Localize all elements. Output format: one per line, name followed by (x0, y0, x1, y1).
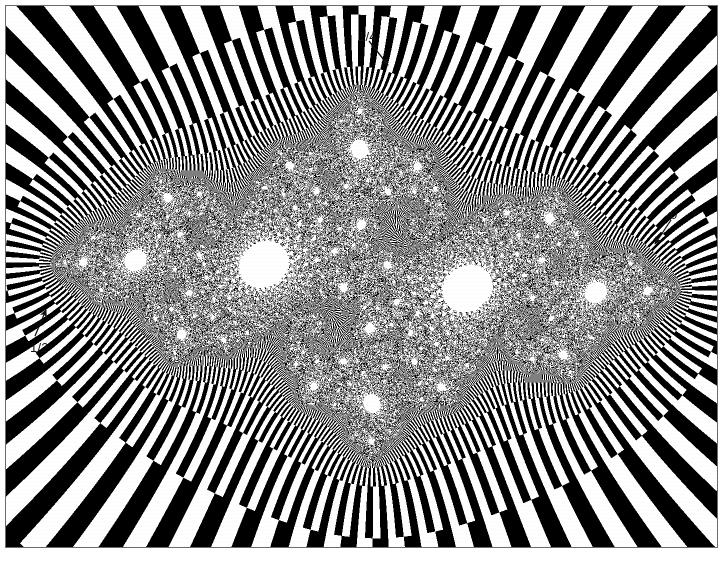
annotation-label-zero: 0 (670, 208, 677, 221)
annotation-label-quarter: 1/4 (358, 30, 377, 43)
figure-root: 1/4 1/2 0 (0, 0, 725, 561)
julia-set-canvas (6, 6, 717, 547)
annotation-label-half: 1/2 (30, 341, 49, 354)
figure-plate-frame (5, 5, 718, 548)
